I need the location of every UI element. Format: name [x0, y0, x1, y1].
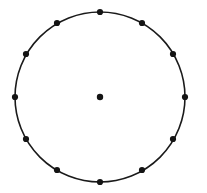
circumference-point-p4	[54, 20, 60, 26]
center-point-layer	[97, 94, 103, 100]
circle-diagram-svg	[0, 0, 207, 193]
circumference-point-p11	[170, 136, 176, 142]
circumference-point-p7	[23, 136, 29, 142]
circumference-point-p0	[182, 94, 188, 100]
figure-canvas	[0, 0, 207, 193]
center-point-center	[97, 94, 103, 100]
circumference-point-p10	[139, 167, 145, 173]
figure-background	[0, 0, 207, 193]
circumference-point-p6	[12, 94, 18, 100]
circumference-point-p5	[23, 51, 29, 57]
circumference-point-p1	[170, 51, 176, 57]
circumference-point-p2	[139, 20, 145, 26]
circumference-point-p9	[97, 179, 103, 185]
circumference-point-p8	[54, 167, 60, 173]
circumference-point-p3	[97, 9, 103, 15]
